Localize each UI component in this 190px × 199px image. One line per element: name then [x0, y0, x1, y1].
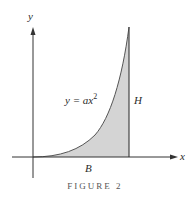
y-axis-label: y [27, 10, 33, 22]
shaded-region [33, 27, 129, 157]
curve-label-base: y = ax [64, 94, 93, 106]
curve-label-exponent: 2 [93, 92, 97, 101]
x-axis-arrow-icon [170, 155, 178, 160]
height-label: H [133, 94, 143, 106]
x-axis-label: x [179, 150, 185, 162]
figure-canvas: y x y = ax2 H B [0, 0, 190, 199]
y-axis-arrow-icon [31, 27, 36, 35]
base-label: B [85, 162, 92, 174]
figure-caption: FIGURE 2 [0, 181, 190, 191]
curve-label: y = ax2 [64, 92, 97, 106]
